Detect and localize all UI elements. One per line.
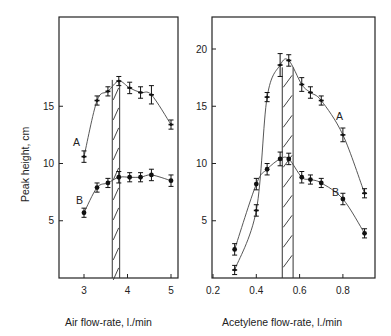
x-tick-label: 0.8	[336, 285, 350, 296]
data-point-b	[138, 173, 143, 182]
y-axis-label: Peak height, cm	[19, 126, 31, 202]
data-point-b	[265, 164, 270, 175]
right-points	[232, 54, 367, 275]
y-tick-label: 10	[43, 158, 55, 169]
x-tick-label: 5	[168, 285, 174, 296]
data-point-a	[138, 87, 143, 98]
data-point-a	[149, 86, 154, 104]
right-shaded-region	[282, 67, 293, 278]
data-point-b	[127, 173, 132, 182]
data-point-b	[340, 193, 345, 204]
data-point-b	[299, 172, 304, 183]
x-tick-label: 3	[81, 285, 87, 296]
y-tick-label: 5	[201, 215, 207, 226]
data-point-b	[116, 172, 121, 183]
data-point-a	[286, 55, 291, 66]
x-tick-label: 0.2	[206, 285, 220, 296]
y-tick-label: 15	[43, 101, 55, 112]
left-y-ticks: 51015	[43, 101, 63, 227]
y-tick-label: 15	[196, 101, 208, 112]
data-point-a	[308, 87, 313, 98]
data-point-b	[319, 178, 324, 187]
data-point-a	[299, 78, 304, 92]
right-panel: 0.20.40.60.8 5101520 A B Acetylene flow-…	[196, 17, 375, 328]
data-point-b	[149, 169, 154, 180]
right-curves	[235, 59, 365, 270]
series-b-curve	[84, 175, 171, 213]
data-point-a	[319, 96, 324, 105]
x-tick-label: 0.4	[249, 285, 263, 296]
data-point-a	[362, 189, 367, 198]
right-series-b-label: B	[332, 186, 339, 198]
left-series-b-label: B	[76, 194, 83, 206]
data-point-a	[265, 93, 270, 102]
series-a-curve	[84, 81, 171, 157]
series-b-curve	[235, 157, 365, 249]
y-tick-label: 5	[48, 215, 54, 226]
right-x-ticks: 0.20.40.60.8	[206, 274, 350, 296]
figure: 345 51015 A B Air flow-rate, l./min Peak…	[0, 0, 391, 336]
right-x-axis-label: Acetylene flow-rate, l./min	[222, 316, 342, 328]
left-x-ticks: 345	[81, 274, 174, 296]
data-point-a	[105, 87, 110, 96]
x-tick-label: 0.6	[293, 285, 307, 296]
left-points	[82, 76, 174, 217]
data-point-b	[105, 178, 110, 187]
data-point-b	[169, 175, 174, 186]
left-panel: 345 51015 A B Air flow-rate, l./min Peak…	[19, 17, 178, 328]
data-point-a	[254, 205, 259, 216]
right-series-a-label: A	[336, 110, 343, 122]
y-tick-label: 10	[196, 158, 208, 169]
y-tick-label: 20	[196, 44, 208, 55]
data-point-a	[127, 82, 132, 93]
left-series-a-label: A	[73, 136, 80, 148]
data-point-a	[82, 151, 87, 162]
data-point-b	[308, 175, 313, 184]
left-x-axis-label: Air flow-rate, l./min	[65, 316, 152, 328]
x-tick-label: 4	[125, 285, 131, 296]
series-a-curve	[235, 59, 365, 270]
data-point-a	[116, 76, 121, 85]
right-y-ticks: 5101520	[196, 44, 216, 227]
